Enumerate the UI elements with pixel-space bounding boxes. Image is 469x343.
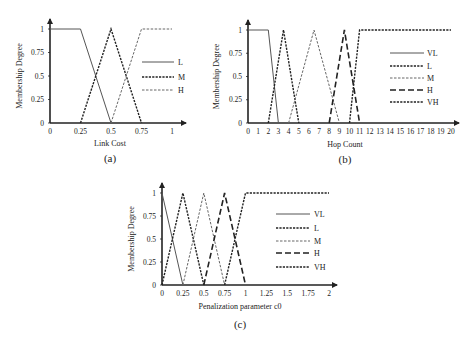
x-tick-label: 2 (327, 289, 331, 298)
x-tick-label: 0.25 (176, 289, 189, 298)
legend-h-label: H (178, 86, 184, 95)
y-tick-label: 0.25 (31, 95, 44, 104)
legend-m-label: M (178, 73, 185, 82)
x-tick-label: 0.25 (74, 127, 87, 136)
y-tick-label: 0.75 (143, 212, 156, 221)
y-tick-label: 0.25 (229, 95, 242, 104)
series-l-line (50, 29, 111, 123)
x-axis-label: Link Cost (94, 139, 127, 148)
x-tick-label: 0 (246, 127, 250, 136)
y-tick-label: 0 (238, 119, 242, 128)
chart-panel-a: 00.250.50.75100.250.50.751Membership Deg… (15, 19, 186, 165)
x-tick-label: 4 (287, 127, 291, 136)
x-tick-label: 0.75 (135, 127, 148, 136)
x-tick-label: 1.25 (260, 289, 273, 298)
x-tick-label: 1.75 (302, 289, 315, 298)
y-tick-label: 1 (238, 26, 242, 35)
y-tick-label: 0.5 (147, 235, 157, 244)
x-tick-label: 7 (317, 127, 321, 136)
x-tick-label: 9 (337, 127, 341, 136)
y-axis-label: Membership Degree (212, 43, 221, 109)
x-tick-label: 0 (160, 289, 164, 298)
chart-panel-b: 00.250.50.751012345678910111213141516171… (212, 20, 459, 166)
x-tick-label: 1 (170, 127, 174, 136)
legend-h-label: H (314, 249, 320, 258)
x-tick-label: 0.5 (199, 289, 209, 298)
series-m-line (183, 193, 225, 285)
x-tick-label: 15 (397, 127, 405, 136)
x-tick-label: 1 (256, 127, 260, 136)
x-tick-label: 2 (266, 127, 270, 136)
x-tick-label: 16 (407, 127, 415, 136)
x-tick-label: 10 (346, 127, 354, 136)
y-tick-label: 0.75 (229, 49, 242, 58)
y-tick-label: 0.5 (233, 72, 243, 81)
panel-caption: (a) (104, 152, 117, 165)
y-axis-label: Membership Degree (127, 206, 136, 272)
legend-h-label: H (427, 86, 433, 95)
x-tick-label: 14 (386, 127, 394, 136)
x-tick-label: 11 (356, 127, 363, 136)
x-tick-label: 5 (297, 127, 301, 136)
y-tick-label: 0.25 (143, 258, 156, 267)
x-tick-label: 17 (417, 127, 425, 136)
panel-caption: (c) (234, 318, 247, 331)
series-h-line (204, 193, 246, 285)
series-vl-line (248, 30, 278, 123)
y-tick-label: 0 (40, 119, 44, 128)
x-tick-label: 18 (427, 127, 435, 136)
legend-vl-label: VL (427, 49, 438, 58)
x-axis-label: Hop Count (327, 140, 363, 149)
x-tick-label: 0 (48, 127, 52, 136)
legend-vh-label: VH (427, 98, 439, 107)
x-tick-label: 12 (366, 127, 374, 136)
x-tick-label: 0.5 (106, 127, 116, 136)
series-vh-line (350, 30, 452, 123)
x-tick-label: 0.75 (218, 289, 231, 298)
series-h-line (329, 30, 359, 123)
x-tick-label: 1.5 (283, 289, 293, 298)
y-tick-label: 0 (152, 281, 156, 290)
series-m-line (81, 29, 142, 123)
legend-vh-label: VH (314, 263, 326, 272)
legend-l-label: L (314, 224, 319, 233)
legend-m-label: M (314, 237, 321, 246)
y-tick-label: 1 (40, 25, 44, 34)
panel-caption: (b) (339, 153, 352, 166)
legend-m-label: M (427, 74, 434, 83)
fuzzy-membership-figure: 00.250.50.75100.250.50.751Membership Deg… (0, 0, 469, 343)
x-axis-label: Penalization parameter c0 (198, 302, 281, 311)
legend-l-label: L (178, 58, 183, 67)
y-tick-label: 1 (152, 189, 156, 198)
y-tick-label: 0.75 (31, 48, 44, 57)
x-tick-label: 19 (437, 127, 445, 136)
series-l-line (162, 193, 204, 285)
series-h-line (111, 29, 172, 123)
legend-l-label: L (427, 62, 432, 71)
chart-panel-c: 00.250.50.75100.250.50.7511.251.51.752Me… (127, 183, 337, 331)
x-tick-label: 1 (244, 289, 248, 298)
x-tick-label: 3 (277, 127, 281, 136)
x-tick-label: 8 (327, 127, 331, 136)
x-tick-label: 20 (447, 127, 455, 136)
x-tick-label: 13 (376, 127, 384, 136)
y-tick-label: 0.5 (35, 72, 45, 81)
y-axis-label: Membership Degree (15, 43, 24, 109)
x-tick-label: 6 (307, 127, 311, 136)
legend-vl-label: VL (314, 210, 325, 219)
